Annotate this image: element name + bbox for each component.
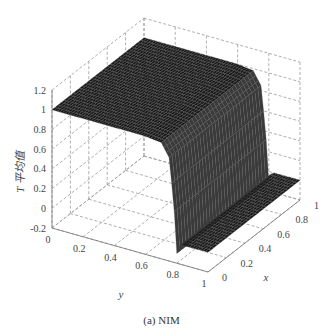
tick-label: 0.6 xyxy=(34,144,47,155)
tick-label: 0.4 xyxy=(34,163,47,174)
tick-label: 0.8 xyxy=(34,124,47,135)
tick-label: 0.6 xyxy=(135,260,148,271)
surface-mesh xyxy=(52,38,300,254)
tick-label: 1.2 xyxy=(34,85,47,96)
tick-label: 0.6 xyxy=(277,229,290,240)
tick-label: 1 xyxy=(202,278,207,289)
tick-label: 0.2 xyxy=(73,243,86,254)
tick-label: 0.4 xyxy=(259,243,272,254)
tick-label: 1 xyxy=(41,104,46,115)
tick-label: 0 xyxy=(222,272,227,283)
y-axis-label: y xyxy=(118,288,124,300)
tick-label: 1 xyxy=(314,200,319,211)
tick-label: 0.8 xyxy=(296,214,309,225)
tick-label: 0.2 xyxy=(34,183,47,194)
x-axis-label: x xyxy=(263,271,269,283)
tick-label: 0.2 xyxy=(240,258,253,269)
z-axis-label: T 平均值 xyxy=(14,149,26,193)
surface-plot: -0.200.20.40.60.811.200.20.40.60.8100.20… xyxy=(0,0,323,336)
tick-label: 0.4 xyxy=(104,252,117,263)
tick-label: 0.8 xyxy=(167,269,180,280)
tick-label: -0.2 xyxy=(30,223,46,234)
figure-caption: (a) NIM xyxy=(0,314,323,326)
tick-label: 0 xyxy=(46,234,51,245)
tick-label: 0 xyxy=(41,203,46,214)
